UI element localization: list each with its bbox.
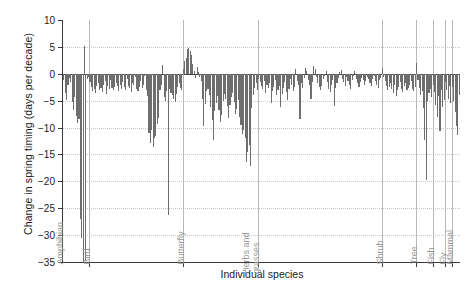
gridline: [62, 128, 460, 130]
group-separator: [445, 20, 446, 262]
group-separator: [452, 20, 453, 262]
bar: [304, 74, 305, 78]
group-label-mammal: Mammal: [445, 230, 455, 265]
y-tick-label: 0: [21, 68, 55, 79]
gridline: [62, 101, 460, 103]
group-separator: [89, 20, 90, 262]
y-tick-label: −35: [21, 257, 55, 268]
group-separator: [433, 20, 434, 262]
bar: [84, 46, 85, 74]
bar: [324, 74, 325, 76]
group-label-butterfly: Butterfly: [176, 231, 186, 264]
gridline: [62, 47, 460, 49]
bar: [459, 74, 460, 96]
y-tick-label: 10: [21, 15, 55, 26]
bar: [195, 74, 196, 78]
x-axis-line: [62, 262, 460, 263]
y-tick-label: 5: [21, 41, 55, 52]
bar: [312, 74, 313, 83]
group-label-line: grasses: [252, 232, 262, 274]
group-label-amphibian: Amphibian: [56, 222, 66, 265]
bar: [168, 74, 169, 215]
bar: [338, 74, 339, 78]
group-label-fish: Fish: [426, 247, 436, 264]
bar: [83, 74, 84, 262]
group-label-tree: Tree: [410, 246, 420, 264]
x-axis-label: Individual species: [62, 268, 462, 280]
group-separator: [382, 20, 383, 262]
bar: [162, 65, 163, 74]
bar: [353, 74, 354, 77]
y-tick-label: −20: [21, 176, 55, 187]
y-tick-label: −30: [21, 230, 55, 241]
group-separator: [416, 20, 417, 262]
plot-area: [62, 20, 460, 262]
bar: [294, 74, 295, 87]
bar: [85, 74, 86, 261]
y-tick-label: −10: [21, 122, 55, 133]
gridline: [62, 181, 460, 183]
group-label-shrub: Shrub: [375, 240, 385, 264]
group-label-herbs-and-grasses: Herbs andgrasses: [242, 232, 261, 274]
y-tick-label: −25: [21, 203, 55, 214]
group-separator: [183, 20, 184, 262]
bar: [416, 63, 417, 74]
gridline: [62, 154, 460, 156]
y-tick-label: −5: [21, 95, 55, 106]
y-tick-label: −15: [21, 149, 55, 160]
gridline: [62, 208, 460, 210]
gridline: [62, 235, 460, 237]
bar: [161, 74, 162, 85]
chart-figure: Change in spring timing (days per decade…: [0, 0, 476, 292]
group-label-bird: Bird: [83, 248, 93, 264]
group-separator: [258, 20, 259, 262]
